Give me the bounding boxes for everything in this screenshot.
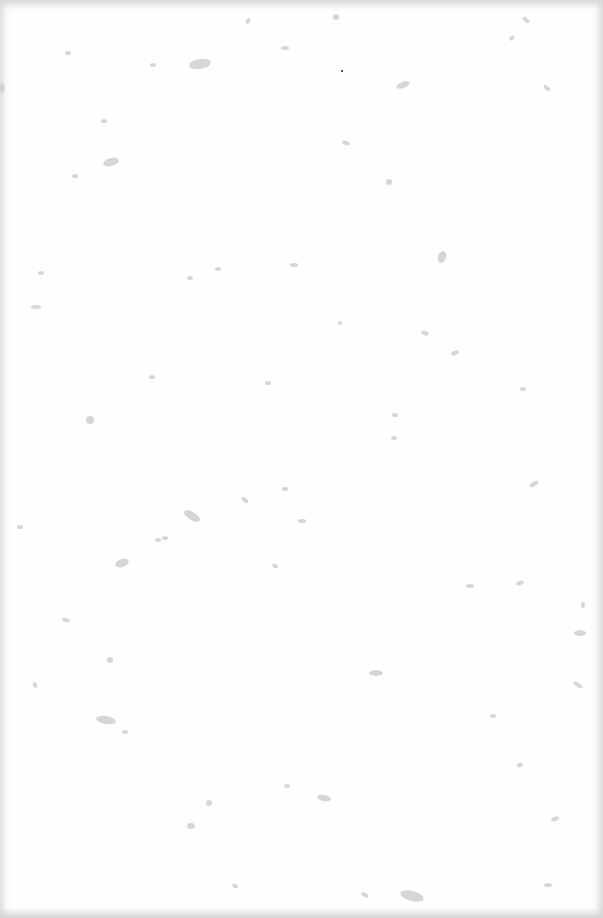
page-edge-shadow-top [0, 0, 603, 8]
paper-speck [149, 375, 155, 379]
page-edge-shadow-bottom [0, 908, 603, 918]
paper-speck [271, 563, 278, 569]
paper-speck [298, 519, 306, 523]
paper-speck [317, 794, 332, 802]
paper-speck [392, 413, 398, 417]
paper-speck [581, 602, 585, 608]
paper-speck [265, 381, 271, 385]
paper-speck [188, 57, 211, 71]
paper-speck [107, 657, 113, 663]
paper-speck [162, 536, 168, 540]
paper-speck [386, 179, 392, 185]
paper-speck [72, 174, 78, 178]
paper-speck [574, 630, 586, 636]
paper-speck [122, 730, 128, 734]
paper-speck [206, 800, 212, 806]
paper-speck [187, 823, 195, 829]
paper-speck [522, 16, 531, 24]
paper-speck [215, 267, 221, 271]
paper-speck [516, 580, 525, 586]
paper-speck [281, 46, 289, 50]
blank-paper-page [0, 0, 603, 918]
paper-speck [65, 51, 71, 55]
paper-speck [573, 681, 584, 689]
paper-speck [231, 883, 238, 889]
paper-speck [150, 63, 156, 67]
paper-speck [338, 321, 342, 325]
paper-speck [187, 276, 193, 280]
paper-speck [32, 681, 38, 688]
paper-speck [38, 271, 44, 275]
paper-speck [543, 84, 552, 92]
paper-speck [155, 538, 161, 542]
paper-speck [520, 387, 526, 391]
dark-speck [341, 70, 343, 72]
paper-speck [282, 487, 288, 491]
paper-speck [508, 35, 515, 42]
paper-speck [516, 762, 523, 768]
paper-speck [31, 305, 41, 309]
paper-speck [421, 330, 430, 336]
paper-speck [529, 480, 540, 488]
paper-speck [17, 525, 23, 529]
paper-speck [284, 784, 290, 788]
paper-speck [391, 436, 397, 440]
paper-speck [369, 670, 383, 676]
paper-speck [544, 883, 552, 887]
paper-speck [395, 80, 410, 90]
paper-speck [490, 714, 496, 718]
paper-speck [101, 119, 107, 123]
paper-speck [86, 416, 94, 424]
page-edge-shadow-left [0, 0, 6, 918]
paper-speck [114, 557, 130, 569]
paper-speck [102, 156, 120, 168]
paper-speck [342, 140, 351, 146]
paper-speck [333, 14, 339, 20]
paper-speck [95, 714, 116, 725]
paper-speck [245, 17, 251, 24]
paper-speck [399, 888, 425, 904]
paper-speck [62, 617, 71, 622]
paper-speck [466, 584, 474, 588]
paper-speck [290, 263, 298, 267]
page-edge-shadow-right [595, 0, 603, 918]
paper-speck [551, 816, 560, 822]
paper-speck [361, 891, 370, 898]
paper-speck [451, 350, 460, 356]
paper-speck [436, 250, 448, 264]
paper-speck [182, 508, 202, 524]
paper-fleck-texture [0, 0, 603, 918]
paper-speck [241, 496, 250, 504]
